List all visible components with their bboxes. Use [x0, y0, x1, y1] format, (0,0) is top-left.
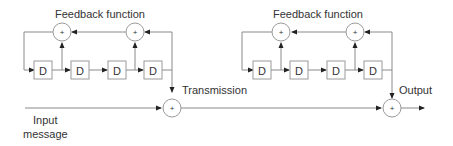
left-register-3-label: D: [113, 65, 121, 77]
left-adder-2-symbol: +: [133, 28, 138, 37]
lfsr-diagram: Feedback function Feedback function D D …: [0, 0, 453, 146]
transmission-label: Transmission: [182, 84, 247, 96]
right-title: Feedback function: [273, 8, 363, 20]
left-register-2-label: D: [76, 65, 84, 77]
right-register-2-label: D: [295, 65, 303, 77]
right-register-1-label: D: [258, 65, 266, 77]
right-adder-2-symbol: +: [353, 28, 358, 37]
left-register-1-label: D: [39, 65, 47, 77]
transmit-adder-symbol: +: [170, 104, 175, 113]
right-register-4-label: D: [369, 65, 377, 77]
left-adder-1-symbol: +: [60, 28, 65, 37]
left-title: Feedback function: [55, 8, 145, 20]
right-adder-1-symbol: +: [279, 28, 284, 37]
output-label: Output: [399, 84, 432, 96]
output-adder-symbol: +: [390, 104, 395, 113]
left-register-4-label: D: [149, 65, 157, 77]
input-label-line2: message: [23, 128, 68, 140]
right-register-3-label: D: [332, 65, 340, 77]
input-label-line1: Input: [33, 114, 57, 126]
